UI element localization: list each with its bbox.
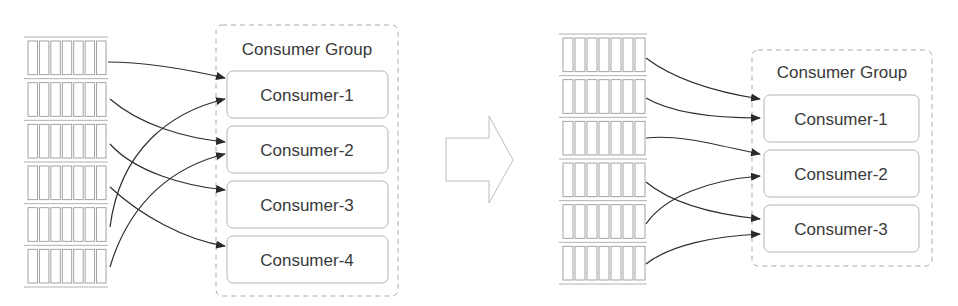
message-slot [28, 208, 37, 242]
message-slot [97, 208, 106, 242]
partition-3 [563, 121, 645, 155]
arrow-p2-c1 [646, 98, 760, 118]
message-slot [51, 166, 60, 200]
consumer-box-after-1: Consumer-1 [764, 95, 919, 142]
message-slot [39, 41, 48, 75]
message-slot [74, 208, 83, 242]
consumer-box-after-2: Consumer-2 [764, 150, 919, 197]
message-slot [635, 205, 645, 239]
message-slot [623, 121, 633, 155]
right-arrow-icon [446, 116, 513, 203]
message-slot [611, 163, 621, 197]
message-slot [28, 166, 37, 200]
partition-5 [563, 205, 645, 239]
message-slot [587, 80, 597, 114]
svg-text:Consumer-4: Consumer-4 [260, 251, 354, 270]
message-slot [635, 38, 645, 72]
arrow-p6-c3 [646, 234, 760, 264]
message-slot [85, 249, 94, 283]
message-slot [635, 163, 645, 197]
partition-5 [28, 208, 106, 242]
message-slot [85, 124, 94, 158]
svg-text:Consumer-1: Consumer-1 [794, 110, 888, 129]
svg-text:Consumer-2: Consumer-2 [260, 141, 354, 160]
message-slot [28, 249, 37, 283]
partition-stack-before [24, 37, 108, 287]
assignment-arrows-after [646, 58, 760, 264]
message-slot [97, 41, 106, 75]
partition-4 [28, 166, 106, 200]
message-slot [611, 38, 621, 72]
message-slot [587, 38, 597, 72]
partition-4 [563, 163, 645, 197]
message-slot [74, 83, 83, 117]
message-slot [599, 246, 609, 280]
consumer-box-after-3: Consumer-3 [764, 205, 919, 252]
message-slot [611, 246, 621, 280]
message-slot [635, 121, 645, 155]
message-slot [575, 38, 585, 72]
message-slot [97, 83, 106, 117]
message-slot [62, 249, 71, 283]
svg-text:Consumer-3: Consumer-3 [260, 196, 354, 215]
message-slot [74, 249, 83, 283]
partition-6 [563, 246, 645, 280]
consumer-group-title-after: Consumer Group [777, 63, 907, 82]
svg-text:Consumer-3: Consumer-3 [794, 220, 888, 239]
consumer-box-before-3: Consumer-3 [227, 181, 388, 228]
arrow-p4-c3 [646, 182, 760, 219]
message-slot [28, 124, 37, 158]
message-slot [575, 121, 585, 155]
message-slot [51, 208, 60, 242]
message-slot [563, 205, 573, 239]
partition-1 [563, 38, 645, 72]
message-slot [97, 124, 106, 158]
message-slot [623, 163, 633, 197]
message-slot [599, 80, 609, 114]
partition-stack-after [559, 34, 647, 284]
message-slot [575, 163, 585, 197]
message-slot [599, 38, 609, 72]
message-slot [39, 208, 48, 242]
message-slot [85, 41, 94, 75]
before-section: Consumer Group Consumer-1 Consumer-2 Con… [24, 25, 398, 296]
message-slot [39, 124, 48, 158]
consumer-box-before-2: Consumer-2 [227, 126, 388, 173]
arrow-p2-c2 [110, 99, 225, 142]
message-slot [587, 121, 597, 155]
message-slot [51, 124, 60, 158]
arrow-p3-c3 [110, 144, 225, 190]
message-slot [62, 166, 71, 200]
message-slot [62, 41, 71, 75]
message-slot [85, 83, 94, 117]
message-slot [62, 124, 71, 158]
message-slot [563, 246, 573, 280]
message-slot [563, 163, 573, 197]
svg-text:Consumer-2: Consumer-2 [794, 165, 888, 184]
message-slot [85, 208, 94, 242]
message-slot [575, 205, 585, 239]
svg-text:Consumer-1: Consumer-1 [260, 86, 354, 105]
message-slot [51, 41, 60, 75]
message-slot [611, 80, 621, 114]
message-slot [563, 80, 573, 114]
message-slot [611, 205, 621, 239]
message-slot [587, 246, 597, 280]
message-slot [74, 124, 83, 158]
rebalance-diagram: Consumer Group Consumer-1 Consumer-2 Con… [0, 0, 958, 306]
message-slot [51, 249, 60, 283]
message-slot [623, 246, 633, 280]
partition-3 [28, 124, 106, 158]
message-slot [575, 80, 585, 114]
assignment-arrows-before [108, 62, 225, 267]
message-slot [599, 205, 609, 239]
message-slot [635, 246, 645, 280]
after-section: Consumer Group Consumer-1 Consumer-2 Con… [559, 34, 932, 284]
message-slot [74, 166, 83, 200]
message-slot [575, 246, 585, 280]
partition-6 [28, 249, 106, 283]
consumer-box-before-1: Consumer-1 [227, 71, 388, 118]
partition-2 [563, 80, 645, 114]
arrow-p5-c1 [110, 99, 225, 227]
message-slot [611, 121, 621, 155]
